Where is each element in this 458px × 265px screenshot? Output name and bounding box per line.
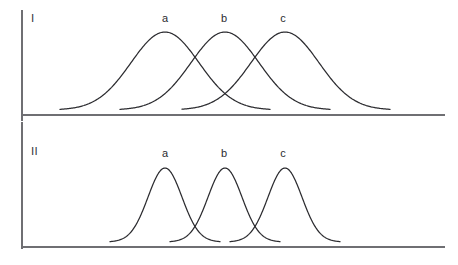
panel-I-curve-c	[182, 32, 390, 109]
panel-II-curve-a	[110, 168, 220, 242]
panel-I-label: I	[31, 12, 35, 24]
panel-I-curve-label-c: c	[280, 12, 286, 24]
panel-I-curve-a	[60, 32, 270, 109]
panel-II: II a b c	[22, 122, 445, 249]
panel-I-curve-b	[120, 32, 330, 109]
panel-II-curve-c	[230, 168, 340, 242]
panel-I: I a b c	[22, 10, 445, 121]
panel-II-curve-label-b: b	[221, 147, 227, 159]
gaussian-curves-figure: I a b c II a b c	[0, 0, 458, 265]
panel-I-curve-label-a: a	[162, 12, 169, 24]
panel-II-curve-label-c: c	[280, 147, 286, 159]
panel-II-curve-label-a: a	[162, 147, 169, 159]
panel-II-curve-b	[170, 168, 280, 242]
panel-II-label: II	[31, 145, 38, 157]
panel-I-curve-label-b: b	[221, 12, 227, 24]
figure-container: I a b c II a b c	[0, 0, 458, 265]
